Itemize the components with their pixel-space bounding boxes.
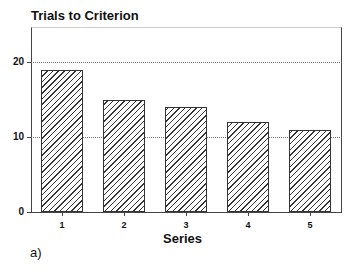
bar-2 [103, 100, 145, 213]
bar-3 [165, 107, 207, 212]
xtick-2 [124, 212, 125, 216]
gridline-20 [31, 62, 342, 63]
ytick-label-20: 20 [4, 56, 24, 67]
xtick-5 [310, 212, 311, 216]
bar-4 [227, 122, 269, 212]
xtick-3 [186, 212, 187, 216]
xtick-1 [62, 212, 63, 216]
xtick-label-4: 4 [238, 220, 258, 230]
ytick-label-0: 0 [4, 206, 24, 217]
chart-title: Trials to Criterion [31, 8, 139, 23]
ytick-label-10: 10 [4, 131, 24, 142]
xtick-label-3: 3 [176, 220, 196, 230]
xtick-label-5: 5 [300, 220, 320, 230]
bar-1 [41, 70, 83, 213]
bar-5 [289, 130, 331, 213]
x-axis-title: Series [163, 231, 202, 246]
x-axis [27, 212, 342, 213]
xtick-4 [248, 212, 249, 216]
ytick-10 [27, 137, 31, 138]
xtick-label-2: 2 [114, 220, 134, 230]
xtick-label-1: 1 [52, 220, 72, 230]
panel-label: a) [30, 245, 42, 260]
ytick-20 [27, 62, 31, 63]
